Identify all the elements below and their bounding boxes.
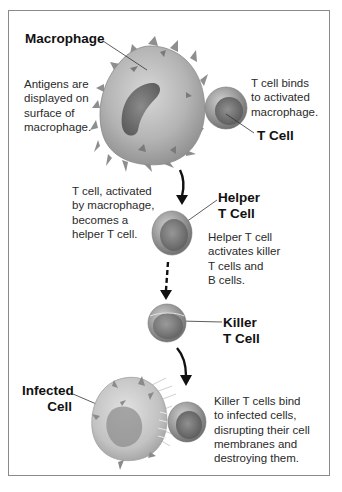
caption-t-cell-activated: T cell, activated by macrophage, becomes… [72, 184, 154, 241]
caption-antigens: Antigens are displayed on surface of mac… [24, 77, 91, 134]
label-t-cell: T Cell [257, 128, 294, 144]
arrow-helper-to-killer [160, 262, 172, 300]
label-macrophage: Macrophage [25, 31, 105, 47]
killer-t-cell [148, 304, 186, 342]
label-infected-cell: Infected Cell [22, 383, 72, 415]
label-helper-t-cell: Helper T Cell [218, 190, 260, 222]
caption-helper-activates: Helper T cell activates killer T cells a… [208, 230, 280, 287]
arrow-killer-to-infected [177, 348, 192, 386]
arrow-macrophage-to-helper [176, 170, 188, 205]
macrophage-cell [90, 36, 208, 172]
t-cell-bound [205, 87, 247, 129]
killer-t-cell-attached [168, 402, 206, 442]
label-killer-t-cell: Killer T Cell [223, 315, 260, 347]
caption-killer-binds: Killer T cells bind to infected cells, d… [214, 394, 310, 465]
helper-t-cell [152, 211, 192, 255]
infected-cell [92, 376, 176, 470]
caption-t-cell-binds: T cell binds to activated macrophage. [251, 76, 318, 119]
